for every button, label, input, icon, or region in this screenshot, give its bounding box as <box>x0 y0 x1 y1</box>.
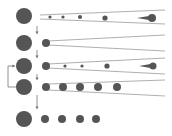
particle-dot <box>42 39 50 47</box>
diagram-row-1 <box>16 8 165 24</box>
projectile-node <box>148 14 156 22</box>
projectile-tail-icon <box>139 64 151 68</box>
particle-dot <box>76 115 84 123</box>
particle-dot <box>78 15 82 19</box>
cone-edge-top <box>48 80 165 84</box>
source-node <box>16 8 32 24</box>
particle-dot <box>61 15 64 18</box>
particle-dot <box>94 83 102 91</box>
particle-dot <box>102 15 107 20</box>
feedback-arrow-icon <box>8 66 16 87</box>
particle-dot <box>41 115 49 123</box>
cone-edge-bottom <box>48 45 165 51</box>
particle-dot <box>59 83 67 91</box>
process-diagram <box>0 0 172 136</box>
cone-edge-bottom <box>48 90 165 96</box>
cone-edge-top <box>48 58 165 64</box>
source-node <box>16 79 32 95</box>
diagram-row-3 <box>16 58 165 74</box>
cone-edge-top <box>48 35 165 41</box>
particle-dot <box>92 115 100 123</box>
source-node <box>16 35 32 51</box>
particle-dot <box>113 83 121 91</box>
particle-dot <box>42 62 50 70</box>
particle-dot <box>76 83 84 91</box>
source-node <box>16 111 32 127</box>
projectile-tail-icon <box>137 16 149 20</box>
diagram-row-4 <box>16 79 165 96</box>
cone-edge-bottom <box>40 19 165 24</box>
particle-dot <box>80 64 83 67</box>
particle-dot <box>42 83 50 91</box>
particle-dot <box>63 64 66 67</box>
cone-edge-top <box>40 10 165 15</box>
source-node <box>16 58 32 74</box>
particle-dot <box>48 15 51 18</box>
diagram-row-5 <box>16 111 100 127</box>
cone-edge-bottom <box>48 68 165 74</box>
projectile-node <box>150 63 157 70</box>
particle-dot <box>58 115 66 123</box>
diagram-row-2 <box>16 35 165 51</box>
diagram-rows <box>16 8 165 127</box>
particle-dot <box>104 63 109 68</box>
